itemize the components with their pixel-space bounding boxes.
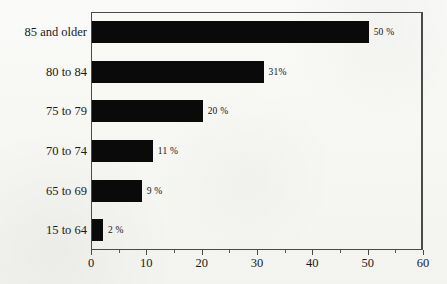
bar-row: 31% bbox=[92, 53, 421, 93]
bar bbox=[92, 61, 264, 83]
minor-tick bbox=[174, 250, 175, 253]
bar bbox=[92, 140, 153, 162]
bar-row: 9 % bbox=[92, 172, 421, 212]
value-axis-tick-label: 50 bbox=[348, 257, 388, 270]
minor-tick bbox=[395, 250, 396, 253]
bar bbox=[92, 21, 369, 43]
major-tick bbox=[368, 250, 369, 255]
major-tick bbox=[312, 250, 313, 255]
bar-row: 20 % bbox=[92, 92, 421, 132]
bar-row: 11 % bbox=[92, 132, 421, 172]
category-label: 75 to 79 bbox=[0, 105, 87, 118]
value-axis-tick-label: 30 bbox=[237, 257, 277, 270]
category-label: 70 to 74 bbox=[0, 145, 87, 158]
value-axis-tick-label: 20 bbox=[182, 257, 222, 270]
bar-value-label: 50 % bbox=[369, 21, 395, 43]
major-tick bbox=[91, 250, 92, 255]
horizontal-bar-chart: 85 and older80 to 8475 to 7970 to 7465 t… bbox=[0, 0, 447, 284]
bar-value-label: 2 % bbox=[103, 219, 124, 241]
bar-row: 50 % bbox=[92, 13, 421, 53]
minor-tick bbox=[285, 250, 286, 253]
bar-value-label: 11 % bbox=[153, 140, 178, 162]
bar bbox=[92, 100, 203, 122]
value-axis: 0102030405060 bbox=[91, 250, 423, 284]
minor-tick bbox=[340, 250, 341, 253]
major-tick bbox=[202, 250, 203, 255]
major-tick bbox=[423, 250, 424, 255]
major-tick bbox=[257, 250, 258, 255]
value-axis-tick-label: 60 bbox=[403, 257, 443, 270]
minor-tick bbox=[119, 250, 120, 253]
category-label: 85 and older bbox=[0, 26, 87, 39]
bar-value-label: 9 % bbox=[142, 180, 163, 202]
value-axis-tick-label: 10 bbox=[126, 257, 166, 270]
category-label: 65 to 69 bbox=[0, 185, 87, 198]
value-axis-tick-label: 0 bbox=[71, 257, 111, 270]
category-label: 15 to 64 bbox=[0, 224, 87, 237]
category-label: 80 to 84 bbox=[0, 66, 87, 79]
value-axis-tick-label: 40 bbox=[292, 257, 332, 270]
bar bbox=[92, 180, 142, 202]
minor-tick bbox=[229, 250, 230, 253]
bar bbox=[92, 219, 103, 241]
plot-area: 50 %31%20 %11 %9 %2 % bbox=[91, 12, 423, 250]
bar-value-label: 20 % bbox=[203, 100, 229, 122]
bar-row: 2 % bbox=[92, 211, 421, 251]
bar-value-label: 31% bbox=[264, 61, 287, 83]
major-tick bbox=[146, 250, 147, 255]
